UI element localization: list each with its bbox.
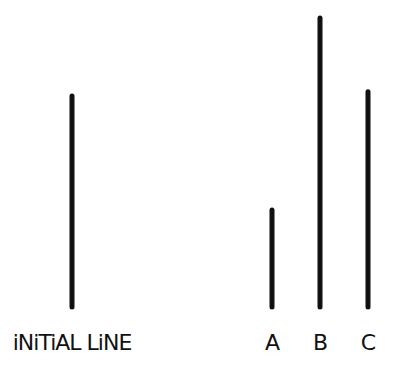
line-comparison-diagram: iNiTiAL LiNE A B C (0, 0, 396, 372)
line-c-label: C (361, 330, 376, 355)
line-b-label: B (313, 330, 327, 355)
initial-line-label: iNiTiAL LiNE (13, 330, 132, 355)
line-a-label: A (265, 330, 280, 355)
